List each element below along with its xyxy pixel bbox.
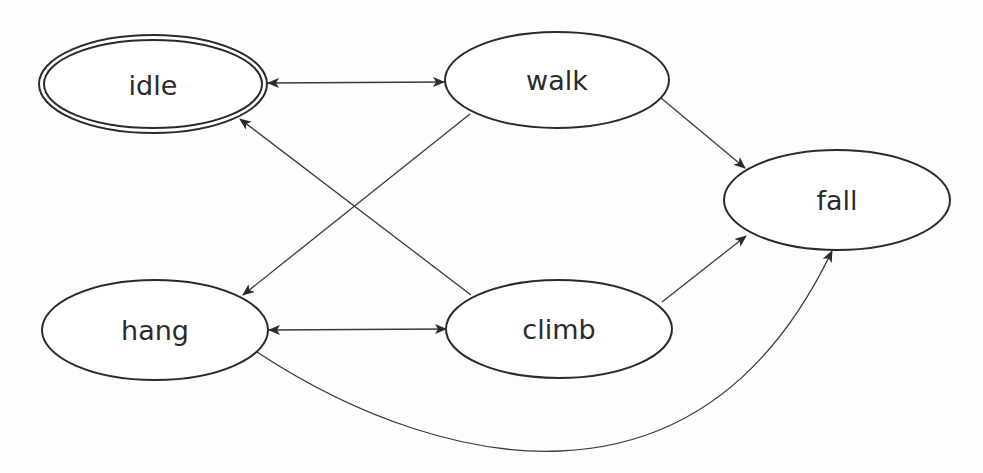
edge-climb-idle [240,119,471,295]
node-idle[interactable]: idle [39,35,267,133]
node-label-fall: fall [816,185,857,216]
edge-walk-fall [661,98,745,168]
state-diagram: idle walk fall hang climb [0,0,983,473]
edges [240,82,832,451]
node-hang[interactable]: hang [42,280,268,380]
node-label-idle: idle [129,70,178,101]
edge-idle-walk [268,82,444,83]
node-fall[interactable]: fall [724,150,950,250]
node-walk[interactable]: walk [445,32,669,128]
node-climb[interactable]: climb [446,280,672,378]
node-label-hang: hang [121,315,189,346]
edge-hang-climb [269,329,446,330]
node-label-climb: climb [522,314,595,345]
edge-climb-fall [662,236,746,302]
node-label-walk: walk [526,65,588,96]
